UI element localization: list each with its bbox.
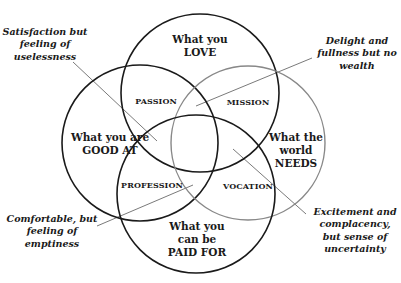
annotation-excitement-line-4: uncertainty <box>310 243 400 255</box>
label-needs: What the world NEEDS <box>268 131 324 170</box>
annotation-comfortable: Comfortable, but feeling of emptiness <box>2 213 102 250</box>
label-love: What you LOVE <box>170 33 230 59</box>
label-paid-for-line-1: What you <box>162 220 232 233</box>
label-love-line-1: What you <box>170 33 230 46</box>
label-paid-for: What you can be PAID FOR <box>162 220 232 259</box>
annotation-excitement-line-1: Excitement and <box>310 206 400 218</box>
annotation-comfortable-line-1: Comfortable, but <box>2 213 102 225</box>
annotation-delight-line-1: Delight and <box>314 35 400 47</box>
label-needs-line-1: What the <box>268 131 324 144</box>
label-paid-for-line-2: can be <box>162 233 232 246</box>
zone-vocation: VOCATION <box>216 181 280 191</box>
zone-profession: PROFESSION <box>116 180 188 190</box>
label-good-at: What you are GOOD AT <box>62 131 158 157</box>
annotation-delight: Delight and fullness but no wealth <box>314 35 400 72</box>
label-good-at-line-2: GOOD AT <box>62 144 158 157</box>
annotation-excitement-line-3: but sense of <box>310 231 400 243</box>
annotation-comfortable-line-3: emptiness <box>2 238 102 250</box>
label-paid-for-line-3: PAID FOR <box>162 246 232 259</box>
annotation-satisfaction-line-1: Satisfaction but <box>2 26 88 38</box>
zone-passion: PASSION <box>126 96 186 106</box>
annotation-comfortable-line-2: feeling of <box>2 225 102 237</box>
annotation-satisfaction: Satisfaction but feeling of uselessness <box>2 26 88 63</box>
label-good-at-line-1: What you are <box>62 131 158 144</box>
annotation-satisfaction-line-2: feeling of <box>2 38 88 50</box>
annotation-excitement-line-2: complacency, <box>310 218 400 230</box>
annotation-excitement: Excitement and complacency, but sense of… <box>310 206 400 255</box>
annotation-delight-line-2: fullness but no <box>314 47 400 59</box>
label-needs-line-3: NEEDS <box>268 157 324 170</box>
annotation-delight-line-3: wealth <box>314 60 400 72</box>
zone-mission: MISSION <box>218 97 278 107</box>
label-needs-line-2: world <box>268 144 324 157</box>
label-love-line-2: LOVE <box>170 46 230 59</box>
annotation-satisfaction-line-3: uselessness <box>2 51 88 63</box>
